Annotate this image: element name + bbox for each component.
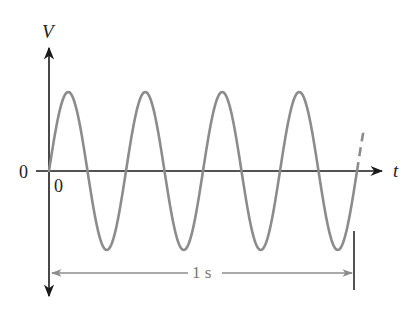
sine-wave-continuation	[357, 129, 364, 171]
origin-t-label: 0	[54, 177, 63, 195]
t-axis-label: t	[393, 161, 398, 180]
interval-label: 1 s	[192, 264, 211, 281]
sine-wave-figure: V t 0 0 1 s	[0, 0, 411, 315]
v-axis-label: V	[42, 22, 54, 41]
origin-v-label: 0	[19, 163, 28, 181]
